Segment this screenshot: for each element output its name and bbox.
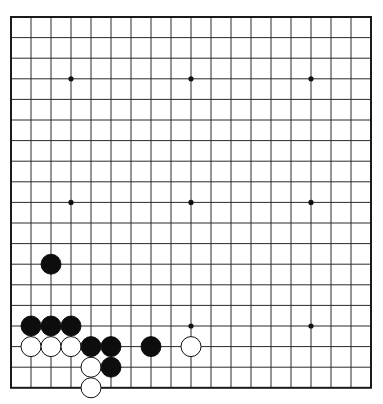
black-stone[interactable] [101, 337, 121, 357]
go-board-svg[interactable] [0, 0, 383, 404]
black-stone[interactable] [41, 316, 61, 336]
star-point [188, 323, 193, 328]
white-stone[interactable] [81, 357, 101, 377]
star-point [68, 200, 73, 205]
black-stone[interactable] [101, 357, 121, 377]
black-stone[interactable] [41, 254, 61, 274]
star-point [308, 76, 313, 81]
go-board[interactable] [0, 0, 383, 404]
star-point [308, 200, 313, 205]
star-point [68, 76, 73, 81]
white-stone[interactable] [61, 337, 81, 357]
black-stone[interactable] [141, 337, 161, 357]
white-stone[interactable] [41, 337, 61, 357]
star-point [188, 76, 193, 81]
black-stone[interactable] [81, 337, 101, 357]
black-stone[interactable] [61, 316, 81, 336]
white-stone[interactable] [21, 337, 41, 357]
black-stone[interactable] [21, 316, 41, 336]
star-point [308, 323, 313, 328]
star-point [188, 200, 193, 205]
white-stone[interactable] [81, 378, 101, 398]
white-stone[interactable] [181, 337, 201, 357]
